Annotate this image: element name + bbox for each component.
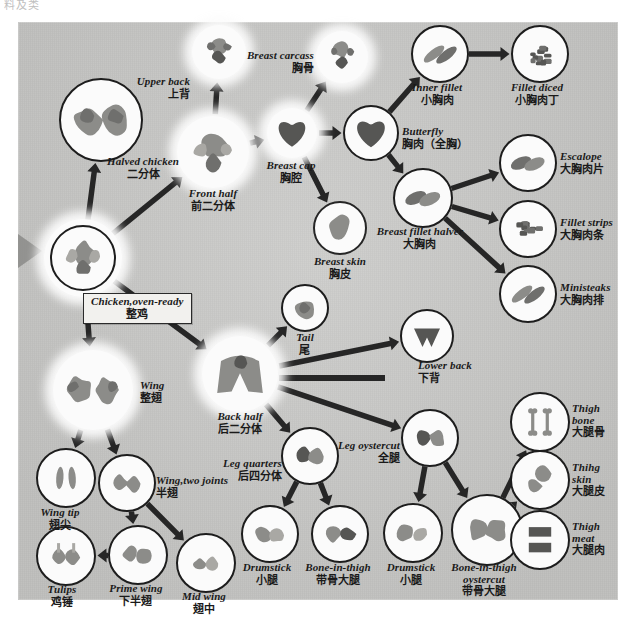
caption-en-front_half: Front half [189,188,237,200]
node-wing_two_joints[interactable] [98,454,156,512]
caption-zh-bone_in_thigh: 带骨大腿 [305,575,371,587]
caption-zh-front_half: 前二分体 [189,201,237,213]
node-escalope[interactable] [499,134,557,192]
caption-leg_oystercut: Leg oystercut全腿 [338,440,400,464]
caption-en2-thigh_bone: bone [572,415,605,427]
caption-zh-fillet_strips: 大胸肉条 [560,230,613,242]
caption-en-breast_skin: Breast skin [314,256,366,268]
node-fillet_diced[interactable] [511,25,569,83]
caption-leg_quarters: Leg quarters后四分体 [223,458,282,482]
node-image-wing_tip [36,448,96,508]
node-mid_wing[interactable] [176,533,236,593]
node-bone_in_thigh[interactable] [311,505,369,563]
node-thigh_skin[interactable] [510,450,570,510]
node-leg_oystercut[interactable] [401,409,459,467]
caption-zh-breast_carcass: 胸骨 [247,63,314,75]
caption-thigh_bone: Thighbone大腿骨 [572,403,605,439]
diagram-root: 料及类 Chicken,oven-ready整鸡Halved chicken二分… [0,0,632,626]
caption-upper_back: Upper back上背 [137,76,190,100]
node-butterfly[interactable] [343,105,399,161]
node-wing[interactable] [53,350,133,430]
caption-en-drumstick_left: Drumstick [243,562,292,574]
caption-zh-inner_fillet: 小胸肉 [412,95,462,107]
node-halved_chicken[interactable] [59,78,143,162]
caption-zh-thigh_bone: 大腿骨 [572,427,605,439]
node-image-breast_fillet_halver [393,168,453,228]
caption-zh-mid_wing: 翅中 [182,604,226,616]
node-leg_quarters[interactable] [281,427,339,485]
node-lower_back[interactable] [400,309,454,363]
caption-en-thigh_meat: Thigh [572,521,605,533]
node-ministeaks[interactable] [499,265,557,323]
caption-en-leg_quarters: Leg quarters [223,458,282,470]
entry-arrow-icon [18,234,42,268]
caption-en-escalope: Escalope [560,151,604,163]
caption-en2-bone_in_thigh_oystercut: oystercut [451,574,517,586]
node-image-tulips [36,526,96,586]
node-tail[interactable] [281,284,329,332]
node-prime_wing[interactable] [108,525,168,585]
node-image-drumstick_right [383,503,443,563]
node-wing_tip[interactable] [36,448,96,508]
node-image-wing_two_joints [98,454,156,512]
node-chicken_oven_ready[interactable] [50,225,116,291]
caption-zh-halved_chicken: 二分体 [107,169,179,181]
caption-en-bone_in_thigh: Bone-in-thigh [305,562,371,574]
caption-en-breast_carcass: Breast carcass [247,50,314,62]
node-image-fillet_strips [499,200,557,258]
node-drumstick_right[interactable] [383,503,443,563]
node-fillet_strips[interactable] [499,200,557,258]
caption-en-fillet_strips: Fillet strips [560,217,613,229]
caption-zh-upper_back: 上背 [137,89,190,101]
node-image-fillet_diced [511,25,569,83]
node-image-butterfly [343,105,399,161]
node-thigh_meat[interactable] [510,510,570,570]
caption-breast_carcass: Breast carcass胸骨 [247,50,314,74]
caption-zh-tail: 尾 [296,345,314,357]
node-breast_cap[interactable] [267,108,317,158]
node-thigh_bone[interactable] [510,392,570,452]
node-image-halved_chicken [59,78,143,162]
node-front_half[interactable] [177,116,249,188]
caption-wing: Wing整翅 [140,380,164,404]
node-drumstick_left[interactable] [241,505,299,563]
caption-breast_skin: Breast skin胸皮 [314,256,366,280]
caption-en-breast_fillet_halver: Breast fillet halver [377,226,463,238]
caption-zh-leg_quarters: 后四分体 [223,471,282,483]
caption-zh-breast_cap: 胸腔 [267,173,316,185]
caption-zh-thigh_skin: 大腿皮 [572,486,605,498]
node-image-thigh_skin [510,450,570,510]
caption-en-halved_chicken: Halved chicken [107,156,179,168]
node-image-prime_wing [108,525,168,585]
caption-zh-prime_wing: 下半翅 [109,596,162,608]
caption-en-thigh_bone: Thigh [572,403,605,415]
caption-wing_two_joints: Wing,two joints半翅 [156,475,228,499]
node-upper_back[interactable] [192,25,246,79]
node-image-breast_cap [267,108,317,158]
caption-tail: Tail尾 [296,332,314,356]
caption-front_half: Front half前二分体 [189,188,237,212]
caption-butterfly: Butterfly胸肉（全胸） [402,126,468,150]
caption-en-breast_cap: Breast cap [267,160,316,172]
caption-en-tail: Tail [296,332,314,344]
node-inner_fillet[interactable] [411,25,469,83]
node-back_half[interactable] [202,336,278,412]
caption-drumstick_left: Drumstick小腿 [243,562,292,586]
node-breast_fillet_halver[interactable] [393,168,453,228]
caption-en-chicken_oven_ready: Chicken,oven-ready [91,296,184,308]
caption-zh-thigh_meat: 大腿肉 [572,545,605,557]
node-image-chicken_oven_ready [50,225,116,291]
caption-zh-lower_back: 下背 [418,373,472,385]
node-breast_skin[interactable] [313,201,367,255]
caption-bone_in_thigh: Bone-in-thigh带骨大腿 [305,562,371,586]
caption-en-bone_in_thigh_oystercut: Bone-in-thigh [451,562,517,574]
caption-zh-back_half: 后二分体 [217,424,262,436]
caption-zh-breast_fillet_halver: 大胸肉 [377,239,463,251]
caption-en-wing_tip: Wing tip [40,507,79,519]
node-tulips[interactable] [36,526,96,586]
node-breast_carcass[interactable] [316,31,368,83]
caption-en-upper_back: Upper back [137,76,190,88]
caption-thigh_meat: Thighmeat大腿肉 [572,521,605,557]
caption-fillet_diced: Fillet diced小胸肉丁 [511,82,563,106]
node-image-mid_wing [176,533,236,593]
